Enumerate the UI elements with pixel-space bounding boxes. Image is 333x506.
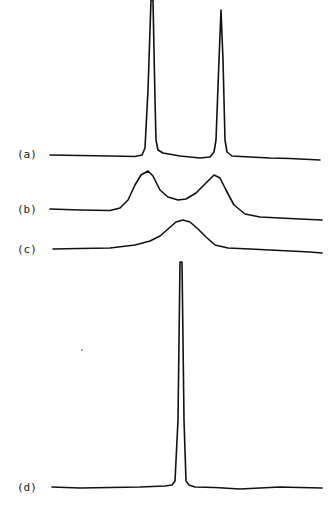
label-c: (c) — [17, 243, 37, 256]
speck — [81, 349, 83, 351]
label-d: (d) — [17, 481, 37, 494]
trace-c — [53, 220, 322, 253]
trace-b — [50, 171, 322, 220]
spectra-figure: (a) (b) (c) (d) — [0, 0, 333, 506]
trace-a — [50, 0, 320, 160]
spectra-plot — [0, 0, 333, 506]
trace-d — [52, 262, 322, 489]
label-a: (a) — [17, 148, 37, 161]
label-b: (b) — [17, 203, 37, 216]
